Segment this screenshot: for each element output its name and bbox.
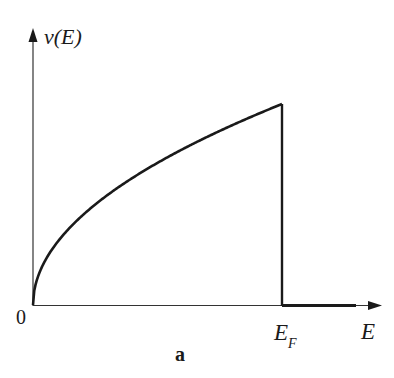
fermi-energy-label: EF xyxy=(274,320,297,350)
x-axis-arrow-icon xyxy=(368,301,382,310)
dos-curve xyxy=(33,104,282,305)
panel-label: a xyxy=(175,343,185,366)
x-axis-label: E xyxy=(361,319,375,345)
y-axis-arrow-icon xyxy=(29,28,38,42)
origin-label: 0 xyxy=(16,306,26,329)
fermi-energy-main: E xyxy=(274,320,288,345)
y-axis-label: ν(E) xyxy=(44,24,82,50)
dos-chart xyxy=(0,0,394,378)
fermi-energy-subscript: F xyxy=(288,336,297,351)
